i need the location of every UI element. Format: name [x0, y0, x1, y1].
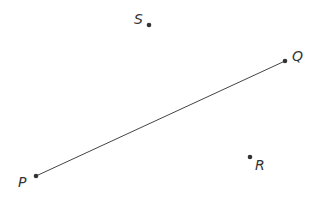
point-s [147, 23, 152, 28]
label-r: R [255, 157, 265, 173]
label-p: P [18, 174, 27, 190]
label-s: S [134, 11, 143, 27]
point-p [34, 174, 39, 179]
point-q [283, 59, 288, 64]
point-r [248, 155, 253, 160]
label-q: Q [292, 48, 303, 64]
geometry-diagram: S Q P R [0, 0, 320, 198]
segment-pq [36, 61, 285, 176]
